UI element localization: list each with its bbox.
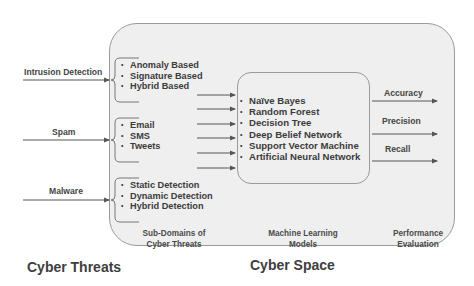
caption-performance: Performance Evaluation (378, 229, 458, 250)
list-item: •Decision Tree (240, 117, 360, 128)
subdomain-list-intrusion: •Anomaly Based •Signature Based •Hybrid … (121, 60, 203, 92)
title-cyber-space: Cyber Space (250, 257, 335, 273)
metric-recall: Recall (385, 144, 410, 154)
metric-precision: Precision (382, 116, 421, 126)
ml-models-list: •Naïve Bayes •Random Forest •Decision Tr… (240, 95, 360, 162)
caption-ml-models: Machine Learning Models (253, 229, 353, 250)
list-item: •SMS (121, 131, 160, 142)
list-item: •Support Vector Machine (240, 140, 360, 151)
threat-label-intrusion: Intrusion Detection (24, 67, 102, 77)
list-item: •Anomaly Based (121, 60, 203, 71)
list-item: •Artificial Neural Network (240, 151, 360, 162)
subdomain-list-spam: •Email •SMS •Tweets (121, 120, 160, 152)
list-item: •Email (121, 120, 160, 131)
threat-label-malware: Malware (49, 186, 83, 196)
list-item: •Hybrid Based (121, 81, 203, 92)
caption-subdomains: Sub-Domains of Cyber Threats (124, 229, 224, 250)
list-item: •Signature Based (121, 71, 203, 82)
threat-label-spam: Spam (52, 127, 75, 137)
list-item: •Deep Belief Network (240, 129, 360, 140)
title-cyber-threats: Cyber Threats (27, 259, 121, 275)
list-item: •Tweets (121, 141, 160, 152)
list-item: •Dynamic Detection (121, 191, 213, 202)
list-item: •Random Forest (240, 106, 360, 117)
metric-accuracy: Accuracy (384, 88, 423, 98)
subdomain-list-malware: •Static Detection •Dynamic Detection •Hy… (121, 180, 213, 212)
list-item: •Naïve Bayes (240, 95, 360, 106)
list-item: •Hybrid Detection (121, 201, 213, 212)
list-item: •Static Detection (121, 180, 213, 191)
